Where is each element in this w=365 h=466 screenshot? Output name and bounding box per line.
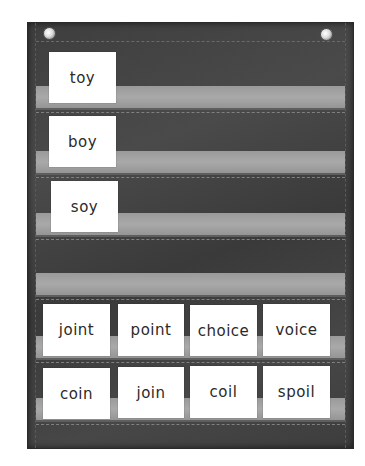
word-card[interactable]: voice: [263, 304, 330, 356]
pocket-row-4: [36, 273, 345, 297]
word-card[interactable]: joint: [43, 304, 110, 356]
word-card[interactable]: coin: [43, 368, 110, 419]
word-card[interactable]: toy: [49, 52, 116, 103]
grommet-right-icon: [320, 28, 333, 41]
word-card[interactable]: soy: [51, 181, 118, 232]
word-card[interactable]: join: [118, 367, 184, 418]
word-card[interactable]: boy: [49, 116, 116, 167]
word-card[interactable]: spoil: [263, 366, 330, 418]
word-card[interactable]: choice: [190, 305, 257, 356]
top-stitching: [36, 41, 345, 42]
grommet-left-icon: [43, 27, 56, 40]
word-card[interactable]: point: [118, 304, 184, 356]
word-card[interactable]: coil: [190, 366, 257, 418]
